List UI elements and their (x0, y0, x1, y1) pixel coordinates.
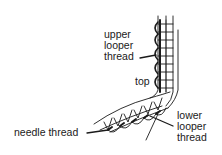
top-label: top (135, 76, 150, 87)
upper-looper-loops (155, 20, 160, 92)
lower-looper-label: lower looper thread (177, 110, 207, 143)
upper-looper-label: upper looper thread (104, 29, 134, 62)
needle-thread-leader (87, 130, 108, 133)
fabric-tail (146, 114, 158, 140)
upper-looper-leader (140, 55, 156, 58)
needle-thread-label: needle thread (14, 127, 78, 138)
